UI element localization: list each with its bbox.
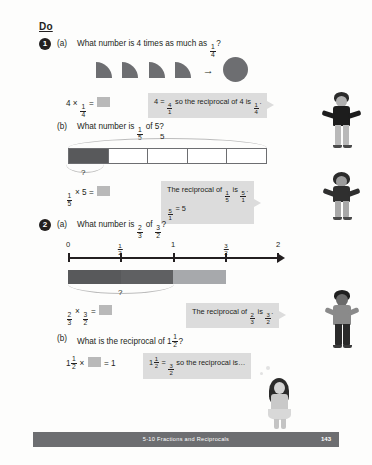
character-girl-dark-top	[320, 172, 364, 222]
q2b-eq-equals: = 1	[102, 359, 116, 368]
q1a-prompt-suffix: ?	[216, 39, 221, 48]
q2a-segment-bar	[68, 270, 226, 284]
numberline-tick-label-1: 1	[171, 240, 175, 249]
question-number-1: 1	[39, 38, 51, 50]
q1a-equation: 4 × 14 =	[66, 97, 111, 118]
q2a-hint-fraction-2: 32	[265, 312, 270, 325]
numberline-tick	[173, 253, 175, 262]
q2b-prompt-suffix: ?	[178, 337, 183, 346]
question-1b-label: (b)	[57, 122, 67, 131]
leg-left	[335, 125, 341, 146]
q1b-equation: 15 × 5 =	[66, 186, 111, 207]
workbook-page: Do 1 (a) What number is 4 times as much …	[0, 0, 372, 465]
quarter-circle-icon	[149, 62, 165, 78]
q2a-prompt-mid: of	[143, 220, 154, 229]
q1b-eq-fraction: 15	[67, 193, 73, 207]
numberline-tick	[120, 253, 122, 262]
bar-cell	[109, 149, 149, 163]
q1b-hint-mid: is	[230, 185, 239, 194]
q2a-hint-pre: The reciprocal of	[192, 307, 249, 316]
q2a-answer-box[interactable]	[99, 305, 112, 315]
q2a-hint-post: .	[271, 307, 273, 316]
section-heading: Do	[39, 21, 53, 32]
shoe-right	[343, 345, 352, 348]
leg-right	[281, 419, 286, 429]
question-1a-prompt: What number is 4 times as much as 14?	[77, 39, 221, 58]
q2a-question-mark-label: ?	[118, 288, 122, 297]
hint-tail-icon	[267, 101, 274, 109]
q1a-hint-pre: 4 =	[154, 97, 167, 106]
character-girl-long-hair	[258, 378, 302, 433]
thought-bubble-dot	[266, 366, 270, 370]
q1b-hint-line-1: The reciprocal of 15 is 51.	[167, 184, 248, 203]
question-2a-prompt: What number is 23 of 32?	[77, 220, 166, 239]
segment-dark	[68, 270, 121, 284]
q2b-equation: 112 × = 1	[66, 356, 116, 370]
q1b-hint-fraction-2: 51	[240, 190, 245, 203]
shoe-left	[333, 345, 342, 348]
shoe-left	[333, 145, 342, 148]
q1b-answer-box[interactable]	[97, 186, 110, 196]
q1b-eq-left: × 5	[73, 188, 87, 197]
segment-mid	[121, 270, 173, 284]
q1b-hint-line2-post: = 5	[173, 204, 186, 213]
head	[274, 382, 285, 394]
numberline-arrow-icon	[277, 253, 285, 263]
shoe-right	[343, 217, 352, 220]
character-boy-gray-top	[320, 290, 364, 350]
q1a-hint-post: .	[259, 97, 261, 106]
numberline-tick	[68, 253, 70, 262]
q2b-answer-box[interactable]	[88, 357, 101, 367]
question-2a-label: (a)	[57, 220, 67, 229]
q2b-eq-left: ×	[77, 359, 86, 368]
q1b-eq-equals: =	[87, 188, 96, 197]
leg-right	[343, 201, 349, 218]
shoe-left	[333, 217, 342, 220]
q1a-hint-box: 4 = 41 so the reciprocal of 4 is 14.	[148, 93, 267, 118]
q2a-hint-mid: is	[255, 307, 264, 316]
bar-cell	[188, 149, 228, 163]
q2b-hint-mid: =	[160, 358, 168, 367]
q2a-prompt-prefix: What number is	[77, 220, 137, 229]
leg-right	[343, 324, 350, 346]
q2a-number-line	[68, 257, 278, 259]
q2a-prompt-fraction-2: 32	[155, 225, 161, 239]
question-2b-label: (b)	[57, 334, 67, 343]
question-number-2: 2	[39, 219, 51, 231]
q1b-question-mark-label: ?	[81, 168, 85, 177]
leg-left	[335, 201, 341, 218]
q2b-eq-mixed-number: 112	[66, 356, 77, 370]
q1b-bar-model	[68, 148, 267, 164]
q2a-eq-equals: =	[89, 307, 98, 316]
quarter-circle-icon	[122, 62, 138, 78]
q1b-hint-box: The reciprocal of 15 is 51. 51 = 5	[161, 181, 254, 224]
full-circle-icon	[223, 57, 248, 82]
q2b-hint-post: so the reciprocal is…	[174, 358, 245, 367]
numberline-tick-label-2: 2	[276, 240, 280, 249]
q1a-answer-box[interactable]	[97, 97, 110, 107]
q2a-eq-fraction-2: 32	[83, 312, 89, 326]
quarter-circle-icon	[175, 62, 191, 78]
shoe-right	[343, 145, 352, 148]
q2a-eq-left: ×	[73, 307, 82, 316]
leg-left	[335, 324, 342, 346]
q2b-hint-box: 112 = 32 so the reciprocal is…	[143, 353, 251, 379]
q1a-eq-fraction: 14	[80, 104, 86, 118]
q2b-prompt-prefix: What is the reciprocal of	[77, 337, 167, 346]
q2a-eq-fraction-1: 23	[67, 312, 73, 326]
question-2b-prompt: What is the reciprocal of 112?	[77, 334, 183, 348]
question-1a-label: (a)	[57, 39, 67, 48]
numberline-tick	[225, 253, 227, 262]
q1a-shape-diagram: →	[96, 57, 248, 82]
hint-tail-icon	[254, 199, 261, 207]
hint-tail-icon	[279, 311, 286, 319]
q2a-equation: 23 × 32 =	[66, 305, 113, 326]
segment-light	[173, 270, 226, 284]
q1b-prompt-mid: of 5	[143, 122, 159, 131]
q1a-hint-mid: so the reciprocal of 4 is	[173, 97, 253, 106]
thought-bubble-dot	[260, 372, 263, 375]
bar-cell-filled	[69, 149, 109, 163]
page-footer: 5-10 Fractions and Reciprocals 143	[33, 432, 339, 447]
q1a-prompt-prefix: What number is 4 times as much as	[77, 39, 209, 48]
footer-page-number: 143	[321, 432, 331, 447]
